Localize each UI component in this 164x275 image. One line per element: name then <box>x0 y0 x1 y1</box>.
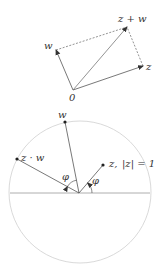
z-point-label: z, <box>108 158 117 169</box>
zw-label: z · w <box>20 152 45 163</box>
origin-label: 0 <box>69 92 76 103</box>
point-zw <box>15 157 18 160</box>
ray-z <box>79 165 103 193</box>
vector-addition-diagram: 0 w z z + w <box>44 13 152 103</box>
ray-zw <box>17 159 79 193</box>
z-label: z <box>145 61 152 72</box>
w-point-label: w <box>58 109 67 120</box>
angle-phi-label-1: φ <box>62 171 69 182</box>
vector-w <box>56 50 73 90</box>
angle-phi-label-2: φ <box>92 175 99 186</box>
modulus-label: |z| = 1 <box>122 158 155 170</box>
dashed-edge-w-to-sum <box>56 27 127 50</box>
complex-numbers-diagram: 0 w z z + w w z · w z, |z| = 1 φ φ <box>0 0 164 275</box>
ray-w <box>65 122 79 193</box>
w-label: w <box>44 40 53 51</box>
dashed-edge-z-to-sum <box>127 27 143 66</box>
z-plus-w-label: z + w <box>117 13 147 24</box>
rotation-diagram: w z · w z, |z| = 1 φ φ <box>9 109 155 263</box>
point-w <box>63 120 66 123</box>
point-z <box>101 163 104 166</box>
